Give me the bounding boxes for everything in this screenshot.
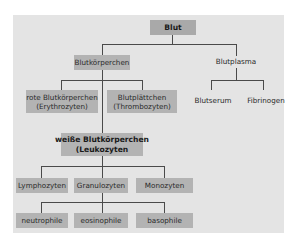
node-monozyten: Monozyten [136,178,193,193]
node-eosinophile: eosinophile [74,213,128,228]
node-blutkoerperchen: Blutkörperchen [74,55,130,70]
node-erythrozyten: rote Blutkörperchen (Erythrozyten) [26,90,98,113]
node-basophile: basophile [136,213,193,228]
connector-line [102,44,103,55]
node-neutrophile: neutrophile [16,213,68,228]
connector-line [164,166,165,178]
node-sublabel: (Leukozyten [76,145,129,154]
node-label: rote Blutkörperchen [26,93,98,102]
connector-line [41,202,42,213]
node-label: weiße Blutkörperchen [55,135,149,144]
node-lymphozyten: Lymphozyten [16,178,68,193]
node-thrombozyten: Blutplättchen (Thrombozyten) [107,90,177,113]
connector-line [41,166,42,178]
connector-line [61,80,143,81]
node-label: Blutplättchen [118,93,166,102]
connector-line [102,44,237,45]
node-blutserum: Blutserum [195,96,232,105]
connector-line [211,80,212,90]
connector-line [142,80,143,90]
connector-line [102,156,103,178]
connector-line [41,202,165,203]
connector-line [263,80,264,90]
node-blutplasma: Blutplasma [216,57,256,66]
connector-line [236,68,237,80]
connector-line [61,80,62,90]
node-fibrinogen: Fibrinogen [247,96,285,105]
node-sublabel: (Erythrozyten) [36,102,88,111]
connector-line [102,193,103,213]
node-blut: Blut [150,20,196,35]
node-sublabel: (Thrombozyten) [113,102,171,111]
connector-line [236,44,237,56]
connector-line [211,80,264,81]
node-granulozyten: Granulozyten [74,178,128,193]
connector-line [41,166,165,167]
connector-line [164,202,165,213]
diagram-panel [13,15,284,233]
node-leukozyten: weiße Blutkörperchen (Leukozyten [61,133,143,156]
